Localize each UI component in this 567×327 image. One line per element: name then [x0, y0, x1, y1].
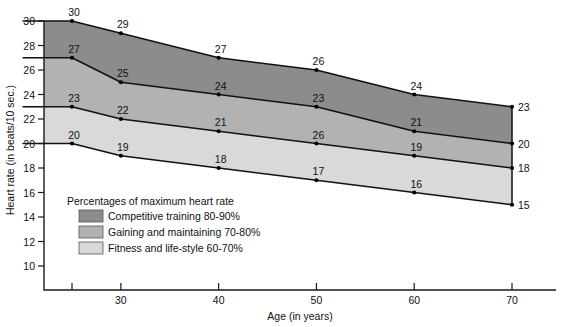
x-tick-label: 70 [506, 294, 518, 306]
data-point-label: 19 [117, 141, 129, 153]
x-tick-label: 50 [311, 294, 323, 306]
data-point-label: 15 [518, 199, 530, 211]
y-axis-tick-labels: 1012141618202224262830 [23, 15, 35, 272]
data-point-label: 29 [117, 18, 129, 30]
data-point-label: 24 [215, 80, 227, 92]
legend-swatch-1 [79, 226, 103, 238]
x-tick-label: 30 [115, 294, 127, 306]
x-tick-label: 40 [213, 294, 225, 306]
data-point-label: 26 [313, 129, 325, 141]
legend-item-label: Competitive training 80-90% [108, 210, 240, 222]
data-point-marker [314, 141, 318, 145]
y-tick-label: 26 [23, 64, 35, 76]
heart-rate-zone-chart: 3029272624232725242321202322212619182019… [0, 0, 567, 327]
data-point-marker [314, 178, 318, 182]
data-point-marker [119, 31, 123, 35]
data-point-marker [412, 129, 416, 133]
data-point-marker [217, 129, 221, 133]
data-point-marker [70, 105, 74, 109]
data-point-label: 23 [68, 92, 80, 104]
chart-legend: Percentages of maximum heart rate Compet… [59, 193, 292, 262]
y-tick-label: 12 [23, 236, 35, 248]
data-point-label: 16 [410, 178, 422, 190]
data-point-marker [412, 154, 416, 158]
x-axis-title: Age (in years) [267, 310, 332, 322]
data-point-marker [510, 203, 514, 207]
legend-item-label: Fitness and life-style 60-70% [108, 242, 243, 254]
y-axis-title: Heart rate (in beats/10 sec.) [4, 85, 16, 215]
y-tick-label: 16 [23, 187, 35, 199]
data-point-marker [217, 166, 221, 170]
data-point-label: 22 [117, 104, 129, 116]
data-point-marker [119, 154, 123, 158]
y-tick-label: 22 [23, 113, 35, 125]
data-point-label: 27 [215, 43, 227, 55]
data-point-marker [119, 80, 123, 84]
y-tick-label: 30 [23, 15, 35, 27]
y-tick-label: 20 [23, 138, 35, 150]
data-point-marker [119, 117, 123, 121]
data-point-marker [510, 166, 514, 170]
data-point-label: 26 [313, 55, 325, 67]
data-point-label: 30 [68, 6, 80, 18]
x-tick-label: 60 [408, 294, 420, 306]
y-tick-label: 14 [23, 211, 35, 223]
data-point-label: 21 [410, 116, 422, 128]
data-point-marker [510, 105, 514, 109]
data-point-label: 17 [313, 165, 325, 177]
data-point-marker [70, 19, 74, 23]
data-point-marker [70, 141, 74, 145]
data-point-marker [217, 56, 221, 60]
data-point-marker [412, 190, 416, 194]
data-point-label: 20 [518, 138, 530, 150]
data-point-label: 21 [215, 116, 227, 128]
data-point-marker [314, 105, 318, 109]
legend-swatch-0 [79, 210, 103, 222]
legend-item-label: Gaining and maintaining 70-80% [108, 226, 260, 238]
data-point-label: 24 [410, 80, 422, 92]
data-point-label: 23 [518, 101, 530, 113]
y-tick-label: 10 [23, 260, 35, 272]
data-point-marker [314, 68, 318, 72]
chart-svg: 3029272624232725242321202322212619182019… [0, 0, 567, 327]
y-tick-label: 18 [23, 162, 35, 174]
x-axis-ticks [72, 283, 512, 290]
data-point-marker [412, 92, 416, 96]
data-point-label: 19 [410, 141, 422, 153]
data-point-label: 18 [518, 162, 530, 174]
data-point-label: 25 [117, 67, 129, 79]
data-point-label: 23 [313, 92, 325, 104]
data-point-label: 27 [68, 43, 80, 55]
legend-title: Percentages of maximum heart rate [67, 195, 234, 207]
y-tick-label: 28 [23, 40, 35, 52]
data-point-marker [70, 56, 74, 60]
legend-swatch-2 [79, 242, 103, 254]
data-point-label: 20 [68, 129, 80, 141]
data-point-marker [510, 141, 514, 145]
data-point-marker [217, 92, 221, 96]
x-axis-tick-labels: 3040506070 [115, 294, 518, 306]
data-point-label: 18 [215, 153, 227, 165]
y-tick-label: 24 [23, 89, 35, 101]
